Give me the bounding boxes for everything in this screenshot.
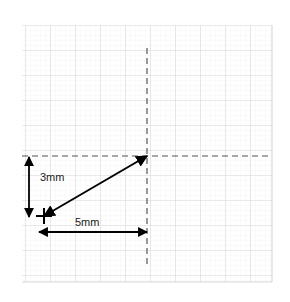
vector-diagram-figure: 3mm 5mm <box>0 0 290 302</box>
horizontal-dimension-label: 5mm <box>75 216 99 228</box>
diagram-canvas: 3mm 5mm <box>0 0 290 302</box>
vertical-dimension-label: 3mm <box>40 171 64 183</box>
